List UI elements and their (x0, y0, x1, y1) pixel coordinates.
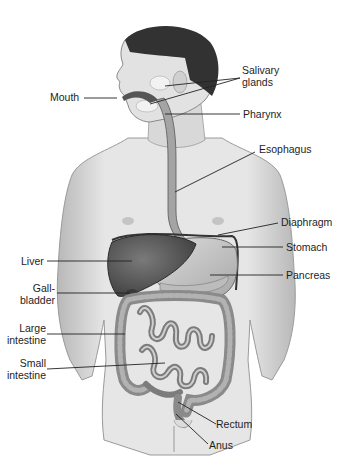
label-large-intestine-line2: intestine (5, 334, 46, 346)
label-stomach: Stomach (286, 241, 327, 253)
label-salivary-line2: glands (242, 76, 279, 88)
label-gallbladder-line2: bladder (20, 294, 55, 306)
label-small-intestine-line1: Small (5, 357, 46, 369)
label-anus: Anus (209, 439, 233, 451)
label-liver: Liver (21, 255, 44, 267)
label-diaphragm: Diaphragm (281, 216, 332, 228)
label-salivary-line1: Salivary (242, 64, 279, 76)
digestive-system-illustration (0, 0, 350, 469)
label-salivary-glands: Salivary glands (242, 64, 279, 88)
label-small-intestine: Small intestine (5, 357, 46, 381)
label-rectum: Rectum (216, 418, 252, 430)
label-pharynx: Pharynx (243, 108, 282, 120)
label-large-intestine: Large intestine (5, 322, 46, 346)
label-gallbladder-line1: Gall- (20, 282, 55, 294)
label-gallbladder: Gall- bladder (20, 282, 55, 306)
label-pancreas: Pancreas (286, 269, 330, 281)
label-mouth: Mouth (50, 91, 79, 103)
label-large-intestine-line1: Large (5, 322, 46, 334)
label-small-intestine-line2: intestine (5, 369, 46, 381)
label-esophagus: Esophagus (259, 143, 312, 155)
